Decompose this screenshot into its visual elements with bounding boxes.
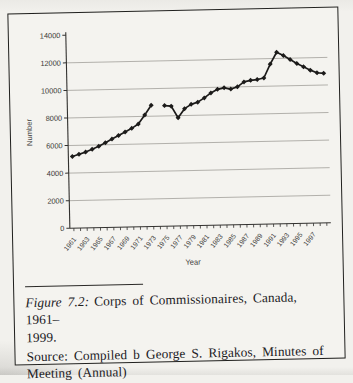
svg-text:1979: 1979 — [182, 233, 197, 249]
svg-text:10000: 10000 — [41, 86, 62, 95]
svg-text:1965: 1965 — [89, 235, 104, 251]
figure-frame: 0200040006000800010000120001400019611963… — [7, 7, 345, 366]
svg-text:1971: 1971 — [129, 234, 144, 250]
commissionaires-line-chart: 0200040006000800010000120001400019611963… — [21, 18, 340, 275]
svg-text:6000: 6000 — [46, 141, 63, 150]
source-text: Source: Compiled b George S. Rigakos, Mi… — [26, 342, 332, 383]
svg-text:1981: 1981 — [195, 233, 210, 249]
svg-text:14000: 14000 — [40, 31, 61, 40]
svg-text:8000: 8000 — [46, 114, 63, 123]
svg-text:4000: 4000 — [47, 169, 64, 178]
svg-text:2000: 2000 — [47, 196, 64, 205]
caption-divider — [25, 284, 143, 287]
svg-text:1987: 1987 — [235, 232, 250, 248]
svg-text:12000: 12000 — [40, 59, 61, 68]
svg-text:1969: 1969 — [116, 235, 131, 251]
svg-text:1963: 1963 — [76, 235, 91, 251]
svg-text:0: 0 — [60, 224, 64, 233]
source-line2: Meeting (Annual) — [27, 364, 127, 381]
x-axis-title: Year — [185, 257, 201, 266]
svg-text:1977: 1977 — [169, 233, 184, 249]
svg-text:1989: 1989 — [249, 232, 264, 248]
svg-text:1997: 1997 — [302, 231, 317, 247]
svg-text:1991: 1991 — [262, 232, 277, 248]
figure-number-label: Figure 7.2: — [25, 294, 89, 310]
svg-text:1961: 1961 — [62, 236, 77, 252]
y-axis-title: Number — [25, 119, 35, 147]
svg-text:1993: 1993 — [275, 231, 290, 247]
caption-text: Figure 7.2:Corps of Commissionaires, Can… — [25, 288, 331, 346]
svg-text:1995: 1995 — [289, 231, 304, 247]
figure-title-line2: 1999. — [26, 329, 57, 345]
svg-text:1967: 1967 — [102, 235, 117, 251]
source-line1: Source: Compiled b George S. Rigakos, Mi… — [26, 343, 323, 364]
svg-text:1985: 1985 — [222, 232, 237, 248]
figure-caption: Figure 7.2:Corps of Commissionaires, Can… — [14, 280, 345, 383]
svg-text:1975: 1975 — [156, 234, 171, 250]
svg-text:1983: 1983 — [209, 233, 224, 249]
chart-area: 0200040006000800010000120001400019611963… — [21, 18, 343, 279]
svg-text:1973: 1973 — [142, 234, 157, 250]
